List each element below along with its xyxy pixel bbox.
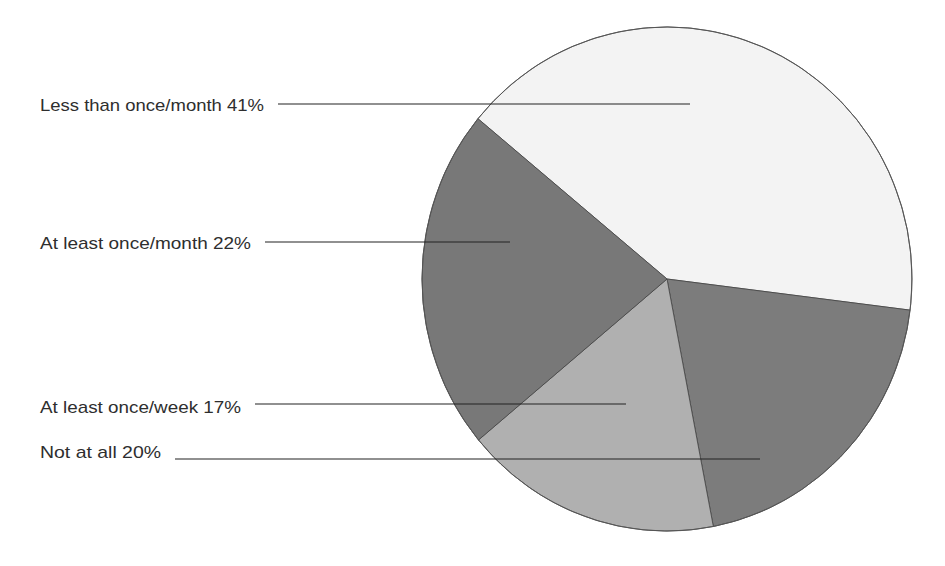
slice-label-not-at-all: Not at all 20%	[40, 443, 161, 462]
slice-label-at-least-once-week: At least once/week 17%	[40, 398, 241, 417]
pie-chart: Less than once/month 41%Not at all 20%At…	[0, 0, 945, 566]
slice-label-less-than-once-month: Less than once/month 41%	[40, 96, 264, 115]
slice-label-at-least-once-month: At least once/month 22%	[40, 234, 251, 253]
